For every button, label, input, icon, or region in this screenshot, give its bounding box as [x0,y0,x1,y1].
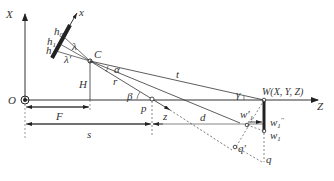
vertical-x-axis: X [5,8,25,100]
x-axis-label: X [5,8,14,20]
r-label: r [113,75,118,87]
line-r [90,61,152,99]
world-object: W(X, Y, Z) [262,86,304,133]
F-label: F [55,110,63,122]
w1-label: w1 [270,129,281,143]
dimension-F: F [25,100,90,140]
origin-marker: O [8,94,29,106]
horizontal-z-axis: Z [25,100,324,112]
camera-x-axis-label: x [78,6,84,18]
s-label: s [87,128,91,140]
diagram-canvas: X Z O x h0 h1 h λ λ' C H t γ r α β [0,0,334,181]
p-label: p [140,102,147,114]
h0-label: h0 [54,25,64,39]
w1-prime-label: w'1 [240,108,253,122]
q-prime-label: q' [238,142,247,154]
gamma-label: γ [236,88,241,100]
w1-dprime-label: w1'' [270,116,284,130]
t-label: t [176,68,180,80]
beta-label: β [126,90,133,102]
lambda-prime-label: λ' [63,53,72,65]
q-label: q [266,153,272,165]
z-label: z [162,110,168,122]
height-label: H [78,78,88,90]
h-label: h [46,44,52,56]
z-axis-label: Z [317,100,324,112]
world-point-label: W(X, Y, Z) [262,86,304,98]
d-label: d [200,111,206,123]
dimension-s: s [26,124,264,140]
z-arrow [152,99,170,110]
origin-label: O [8,94,16,106]
lambda-label: λ [71,40,77,52]
camera-geometry-diagram: X Z O x h0 h1 h λ λ' C H t γ r α β [0,0,334,181]
camera-center-label: C [94,48,102,60]
point-p [150,97,154,101]
point-q-prime [233,145,237,149]
